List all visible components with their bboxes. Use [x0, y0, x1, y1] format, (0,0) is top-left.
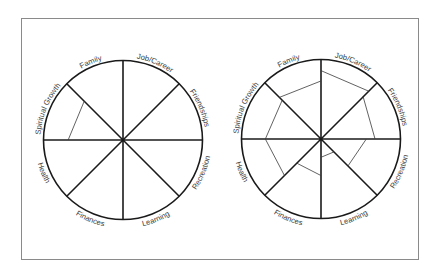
label-health: Health	[234, 160, 251, 183]
wheel-hub	[121, 138, 124, 141]
level-line-health	[265, 139, 284, 176]
level-line-spiritual-growth	[68, 101, 84, 140]
level-line-family	[279, 81, 321, 97]
level-line-learning	[321, 152, 334, 157]
label-health: Health	[36, 161, 53, 184]
level-line-friendships	[363, 97, 375, 139]
label-spiritual-growth: Spiritual Growth	[34, 81, 63, 135]
level-line-finances	[297, 163, 321, 175]
level-line-spiritual-growth	[265, 100, 282, 139]
label-recreation: Recreation	[190, 155, 212, 191]
blank-example-wheel: Job/CareerFriendshipsRecreationLearningF…	[34, 52, 212, 229]
label-spiritual-growth: Spiritual Growth	[232, 80, 261, 134]
level-line-recreation	[348, 139, 366, 166]
level-line-job-career	[321, 71, 369, 92]
wheel-hub	[319, 137, 322, 140]
wheel-of-life-diagram: Job/CareerFriendshipsRecreationLearningF…	[0, 0, 441, 277]
completed-wheel: Job/CareerFriendshipsRecreationLearningF…	[232, 51, 410, 228]
label-recreation: Recreation	[388, 154, 410, 190]
